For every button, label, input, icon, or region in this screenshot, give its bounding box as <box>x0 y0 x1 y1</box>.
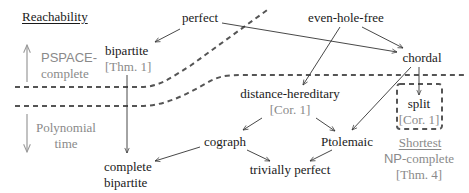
edge-evenhole-distancehereditary <box>303 27 340 85</box>
node-distance-hereditary-ref: [Cor. 1] <box>270 102 310 117</box>
np-complete-label: NP-complete <box>384 151 454 166</box>
node-bipartite: bipartite <box>105 43 148 58</box>
np-complete-ref: [Thm. 4] <box>396 167 442 182</box>
node-even-hole-free: even-hole-free <box>308 10 384 25</box>
edge-ptolemaic-triviallyperfect <box>310 150 332 161</box>
node-split: split <box>408 96 430 111</box>
node-trivially-perfect: trivially perfect <box>250 162 331 177</box>
node-bipartite-ref: [Thm. 1] <box>105 59 151 74</box>
edge-distancehereditary-ptolemaic <box>316 118 335 131</box>
edge-cograph-triviallyperfect <box>247 150 270 161</box>
pspace-suffix: complete <box>41 66 89 81</box>
node-cograph: cograph <box>204 134 246 149</box>
node-perfect: perfect <box>182 10 218 25</box>
edge-perfect-bipartite <box>155 29 180 42</box>
node-split-ref: [Cor. 1] <box>399 112 439 127</box>
shortest-heading: Shortest <box>399 135 442 150</box>
graph-class-diagram: Reachability PSPACE- complete Polynomial… <box>0 0 469 193</box>
pspace-prefix: PSPACE- <box>41 50 97 65</box>
edge-distancehereditary-cograph <box>243 118 262 130</box>
edge-cograph-completebipartite <box>155 147 200 161</box>
node-ptolemaic: Ptolemaic <box>321 134 373 149</box>
node-distance-hereditary: distance-hereditary <box>240 86 340 101</box>
reachability-heading: Reachability <box>22 9 88 24</box>
edge-perfect-chordal <box>222 23 397 52</box>
pspace-complete-label: PSPACE- complete <box>41 50 97 82</box>
polynomial-time-label: Polynomial time <box>36 120 96 152</box>
edge-evenhole-chordal <box>362 27 403 48</box>
node-chordal: chordal <box>403 50 442 65</box>
node-complete-bipartite: complete bipartite <box>104 159 152 191</box>
